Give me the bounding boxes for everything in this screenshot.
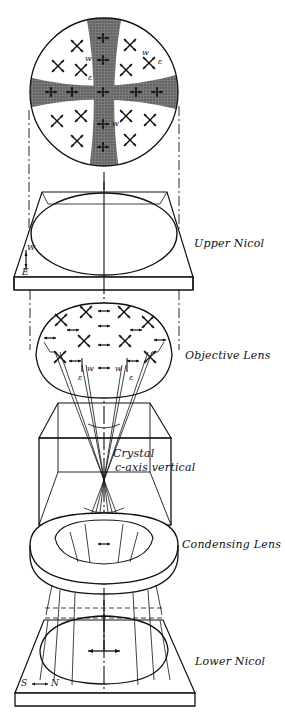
annot-upper-nicol-e: E [22, 267, 29, 277]
condensing-lens [30, 513, 178, 594]
label-objective-lens: Objective Lens [185, 349, 271, 362]
annot-lower-nicol-n: N [51, 678, 59, 688]
annot-lower-nicol-s: S [21, 678, 27, 688]
annot-fig-w1: w [85, 54, 92, 63]
interference-figure [28, 14, 180, 170]
upper-nicol [14, 182, 193, 290]
annot-obj-e-left: ε [78, 373, 82, 382]
annot-upper-nicol-w: W [27, 243, 35, 252]
label-lower-nicol: Lower Nicol [195, 655, 265, 668]
annot-fig-e2: ε [158, 57, 162, 66]
annot-obj-e-right: ε [129, 373, 133, 382]
annot-obj-w-right: w [115, 364, 122, 373]
annot-fig-e1: ε [88, 73, 92, 82]
annot-obj-w-left: w [87, 364, 94, 373]
lower-nicol [15, 600, 195, 706]
label-upper-nicol: Upper Nicol [194, 237, 264, 250]
annot-fig-w2: w [142, 48, 149, 57]
annot-fig-w3: w [112, 119, 119, 128]
label-crystal: Crystal [113, 447, 154, 460]
label-crystal-axis: c-axis vertical [115, 461, 195, 474]
label-condensing-lens: Condensing Lens [182, 538, 281, 551]
